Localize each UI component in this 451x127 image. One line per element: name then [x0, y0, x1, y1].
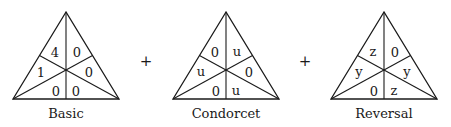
triangle-reversal: z 0 y y 0 z Reversal: [331, 12, 437, 121]
plus-operator: +: [299, 52, 312, 70]
region-bottom-left: 0: [370, 84, 378, 99]
region-bottom-left: 0: [212, 84, 220, 99]
region-bottom-right: u: [232, 83, 240, 98]
region-top-left: 0: [211, 45, 219, 60]
region-bottom-left: 0: [52, 84, 60, 99]
caption-condorcet: Condorcet: [192, 106, 261, 121]
triangle-condorcet: 0 u u 0 0 u Condorcet: [173, 12, 279, 121]
region-left: y: [354, 64, 363, 79]
region-left: 1: [37, 65, 45, 80]
region-top-right: 0: [391, 45, 399, 60]
region-bottom-right: 0: [72, 84, 80, 99]
region-right: 0: [85, 65, 93, 80]
region-left: u: [197, 64, 205, 79]
region-bottom-right: z: [391, 83, 398, 98]
plus-operator: +: [140, 52, 153, 70]
region-right: y: [402, 64, 411, 79]
caption-reversal: Reversal: [355, 106, 412, 121]
region-top-left: z: [370, 44, 377, 59]
region-top-right: u: [233, 44, 241, 59]
region-right: 0: [245, 65, 253, 80]
triangle-sum-diagram: 4 0 1 0 0 0 Basic + 0 u u 0 0 u Condorce…: [0, 0, 451, 127]
caption-basic: Basic: [48, 106, 83, 121]
region-top-left: 4: [51, 45, 59, 60]
region-top-right: 0: [73, 45, 81, 60]
triangle-basic: 4 0 1 0 0 0 Basic: [13, 12, 119, 121]
